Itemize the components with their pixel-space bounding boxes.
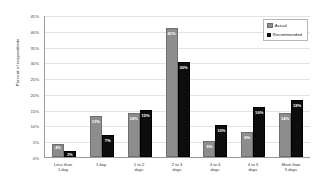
bar-value-label: 15% [142, 113, 150, 118]
x-axis-tick-labels: Less than 1 day1 day1 to 2 days2 to 3 da… [44, 160, 310, 190]
bar-actual[interactable]: 14% [128, 113, 140, 157]
bar-recommended[interactable]: 7% [102, 135, 114, 157]
bar-recommended[interactable]: 30% [178, 62, 190, 157]
bar-actual[interactable]: 41% [166, 28, 178, 157]
y-axis-tick-label: 45% [30, 14, 39, 19]
bar-actual[interactable]: 13% [90, 116, 102, 157]
legend-item-actual[interactable]: Actual [267, 23, 302, 28]
y-axis-tick-label: 25% [30, 77, 39, 82]
legend: ActualRecommended [263, 19, 308, 41]
x-axis-tick-label: 3 to 4 days [196, 160, 234, 190]
bar-actual[interactable]: 4% [52, 144, 64, 157]
bar-value-label: 30% [179, 65, 187, 70]
x-axis-tick-label: More than 5 days [272, 160, 310, 190]
y-axis-tick-label: 0% [33, 156, 39, 161]
bar-chart: Percent of respondents 45%40%35%30%25%20… [0, 0, 320, 194]
y-axis-tick-label: 40% [30, 29, 39, 34]
x-axis-tick-label: 4 to 5 days [234, 160, 272, 190]
bar-recommended[interactable]: 18% [291, 100, 303, 157]
legend-swatch-icon [267, 33, 270, 36]
x-axis-tick-label: 2 to 3 days [158, 160, 196, 190]
bar-value-label: 10% [217, 128, 225, 133]
y-axis-tick-label: 35% [30, 45, 39, 50]
legend-swatch-icon [267, 23, 272, 28]
bar-recommended[interactable]: 2% [64, 151, 76, 157]
y-axis-tick-label: 15% [30, 108, 39, 113]
y-axis-tick-labels: 45%40%35%30%25%20%15%10%5%0% [0, 16, 42, 158]
bar-value-label: 16% [255, 110, 263, 115]
bar-recommended[interactable]: 16% [253, 107, 265, 157]
y-axis-tick-label: 30% [30, 61, 39, 66]
bar-value-label: 14% [130, 116, 138, 121]
bar-value-label: 5% [206, 144, 212, 149]
x-axis-tick-label: Less than 1 day [44, 160, 82, 190]
legend-item-recommended[interactable]: Recommended [267, 32, 302, 37]
bar-value-label: 2% [67, 153, 73, 157]
x-axis-tick-label: 1 to 2 days [120, 160, 158, 190]
bar-value-label: 18% [293, 103, 301, 108]
bar-recommended[interactable]: 10% [215, 125, 227, 157]
bar-group: 13%7% [83, 16, 121, 157]
y-axis-tick-label: 20% [30, 92, 39, 97]
legend-label: Actual [275, 23, 287, 28]
bar-value-label: 8% [244, 135, 250, 140]
bar-group: 5%10% [196, 16, 234, 157]
bar-actual[interactable]: 5% [203, 141, 215, 157]
bar-actual[interactable]: 8% [241, 132, 253, 157]
bar-recommended[interactable]: 15% [140, 110, 152, 157]
bar-actual[interactable]: 14% [279, 113, 291, 157]
bar-value-label: 41% [167, 31, 175, 36]
bar-value-label: 7% [105, 138, 111, 143]
bar-group: 41%30% [159, 16, 197, 157]
bar-value-label: 13% [92, 119, 100, 124]
bar-group: 4%2% [45, 16, 83, 157]
legend-label: Recommended [273, 32, 302, 37]
bar-group: 14%15% [121, 16, 159, 157]
bar-value-label: 14% [281, 116, 289, 121]
y-axis-tick-label: 5% [33, 140, 39, 145]
x-axis-tick-label: 1 day [82, 160, 120, 190]
y-axis-tick-label: 10% [30, 124, 39, 129]
bar-value-label: 4% [55, 146, 61, 150]
